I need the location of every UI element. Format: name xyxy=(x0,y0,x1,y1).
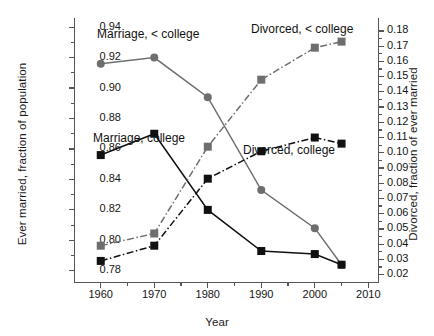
tick-y-right-minor-9 xyxy=(379,129,382,130)
series-annotation-3: Divorced, college xyxy=(243,143,335,157)
tick-y-right-minor-10 xyxy=(379,114,382,115)
tick-x-minor-1 xyxy=(180,283,181,286)
tick-y-right-minor-7 xyxy=(379,160,382,161)
series-annotation-0: Marriage, < college xyxy=(97,27,199,41)
tick-y-left-minor-7 xyxy=(71,42,74,43)
tick-y-right-10 xyxy=(379,122,384,123)
tick-label-x-5: 2010 xyxy=(338,288,398,300)
tick-y-left-minor-3 xyxy=(71,164,74,165)
tick-label-y-right-3: 0.05 xyxy=(387,221,427,233)
tick-y-right-minor-14 xyxy=(379,53,382,54)
tick-x-minor-2 xyxy=(234,283,235,286)
tick-y-right-minor-1 xyxy=(379,251,382,252)
tick-label-y-right-9: 0.11 xyxy=(387,130,427,142)
tick-y-right-1 xyxy=(379,259,384,260)
tick-y-left-minor-4 xyxy=(71,133,74,134)
tick-label-y-right-12: 0.14 xyxy=(387,84,427,96)
tick-y-right-minor-12 xyxy=(379,84,382,85)
tick-label-y-left-3: 0.84 xyxy=(61,172,121,184)
tick-y-right-9 xyxy=(379,137,384,138)
tick-label-y-right-11: 0.13 xyxy=(387,100,427,112)
tick-y-right-14 xyxy=(379,61,384,62)
tick-y-right-minor-0 xyxy=(379,266,382,267)
tick-y-left-minor-2 xyxy=(71,194,74,195)
tick-label-y-left-0: 0.78 xyxy=(61,263,121,275)
tick-y-left-minor-0 xyxy=(71,255,74,256)
tick-y-right-minor-4 xyxy=(379,205,382,206)
tick-label-y-right-1: 0.03 xyxy=(387,252,427,264)
tick-label-y-right-4: 0.06 xyxy=(387,206,427,218)
tick-y-right-minor-6 xyxy=(379,175,382,176)
tick-x-minor-0 xyxy=(127,283,128,286)
tick-label-y-left-5: 0.88 xyxy=(61,111,121,123)
tick-y-right-2 xyxy=(379,244,384,245)
tick-label-y-right-14: 0.16 xyxy=(387,54,427,66)
tick-y-right-minor-15 xyxy=(379,38,382,39)
tick-y-right-minor-8 xyxy=(379,145,382,146)
tick-y-right-minor-3 xyxy=(379,221,382,222)
tick-y-right-6 xyxy=(379,183,384,184)
tick-label-y-right-0: 0.02 xyxy=(387,267,427,279)
tick-y-right-0 xyxy=(379,274,384,275)
tick-y-right-8 xyxy=(379,152,384,153)
tick-label-y-right-13: 0.15 xyxy=(387,69,427,81)
tick-y-left-minor-1 xyxy=(71,225,74,226)
tick-label-x-2: 1980 xyxy=(178,288,238,300)
tick-x-minor-4 xyxy=(341,283,342,286)
tick-y-right-minor-5 xyxy=(379,190,382,191)
tick-label-y-right-10: 0.12 xyxy=(387,115,427,127)
tick-y-right-11 xyxy=(379,106,384,107)
chart-figure: Ever married, fraction of population Div… xyxy=(0,0,434,336)
tick-label-y-left-1: 0.80 xyxy=(61,233,121,245)
tick-y-right-16 xyxy=(379,30,384,31)
tick-y-right-13 xyxy=(379,76,384,77)
tick-x-minor-3 xyxy=(287,283,288,286)
x-axis-title: Year xyxy=(0,316,434,328)
y-axis-left-title: Ever married, fraction of population xyxy=(16,54,28,254)
tick-label-y-left-7: 0.92 xyxy=(61,50,121,62)
tick-y-right-15 xyxy=(379,46,384,47)
tick-label-y-right-8: 0.10 xyxy=(387,145,427,157)
tick-y-right-3 xyxy=(379,228,384,229)
series-annotation-2: Divorced, < college xyxy=(251,22,353,36)
tick-label-y-left-6: 0.90 xyxy=(61,81,121,93)
tick-label-y-right-16: 0.18 xyxy=(387,23,427,35)
tick-y-right-5 xyxy=(379,198,384,199)
tick-y-left-minor-5 xyxy=(71,103,74,104)
tick-y-right-4 xyxy=(379,213,384,214)
tick-y-right-minor-2 xyxy=(379,236,382,237)
tick-label-y-right-6: 0.08 xyxy=(387,176,427,188)
tick-label-y-right-2: 0.04 xyxy=(387,237,427,249)
tick-label-x-0: 1960 xyxy=(71,288,131,300)
tick-y-right-minor-13 xyxy=(379,68,382,69)
tick-label-x-4: 2000 xyxy=(285,288,345,300)
series-annotation-1: Marriage, college xyxy=(93,131,185,145)
tick-y-right-minor-11 xyxy=(379,99,382,100)
tick-label-y-right-15: 0.17 xyxy=(387,39,427,51)
tick-label-y-right-5: 0.07 xyxy=(387,191,427,203)
tick-y-right-7 xyxy=(379,167,384,168)
tick-y-right-12 xyxy=(379,91,384,92)
tick-y-left-minor-6 xyxy=(71,72,74,73)
axis-spine-bottom xyxy=(74,282,379,283)
tick-label-x-1: 1970 xyxy=(124,288,184,300)
tick-label-x-3: 1990 xyxy=(231,288,291,300)
tick-label-y-right-7: 0.09 xyxy=(387,161,427,173)
tick-label-y-left-2: 0.82 xyxy=(61,202,121,214)
